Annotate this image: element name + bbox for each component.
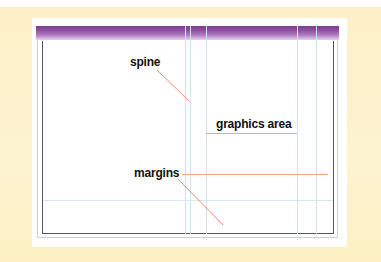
leader-lines (0, 0, 381, 262)
graphics-area-label: graphics area (216, 117, 291, 131)
spine-leader-line (157, 70, 189, 101)
margins-label: margins (134, 166, 179, 180)
margins-leader-line-diagonal (178, 179, 223, 225)
spine-label: spine (130, 55, 160, 69)
